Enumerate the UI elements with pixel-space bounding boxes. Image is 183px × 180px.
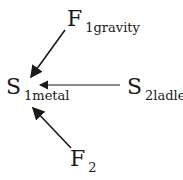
node-sub: 2 [88, 160, 96, 175]
node-main: F [67, 6, 82, 31]
node-s1metal: S1metal [6, 76, 70, 102]
arrow-f2-to-s1 [33, 108, 71, 148]
node-sub: 2ladle [145, 88, 183, 103]
node-sub: 1gravity [85, 20, 140, 35]
node-s2ladle: S2ladle [127, 76, 183, 102]
node-main: S [6, 74, 21, 99]
node-sub: 1metal [24, 88, 69, 103]
arrow-f1-to-s1 [31, 30, 65, 77]
node-main: S [127, 74, 142, 99]
node-f2: F2 [70, 148, 97, 174]
node-f1gravity: F1gravity [67, 8, 140, 34]
node-main: F [70, 146, 85, 171]
